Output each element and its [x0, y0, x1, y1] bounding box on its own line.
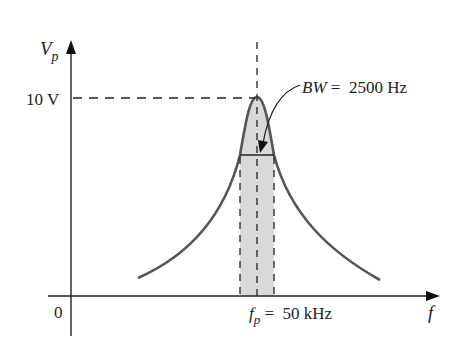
center-frequency-label: fp = 50 kHz — [249, 304, 333, 327]
bandwidth-shaded-region — [138, 97, 380, 296]
resonance-curve-diagram: Vp 10 V BW = 2500 Hz 0 fp = 50 kHz f — [0, 0, 469, 358]
bandwidth-label: BW = 2500 Hz — [302, 78, 407, 97]
origin-label: 0 — [54, 303, 63, 322]
y-axis-arrow-icon — [66, 40, 76, 54]
x-axis-label: f — [428, 302, 436, 323]
peak-value-label: 10 V — [26, 90, 60, 109]
x-axis-arrow-icon — [426, 291, 440, 301]
y-axis-label: Vp — [40, 38, 59, 64]
